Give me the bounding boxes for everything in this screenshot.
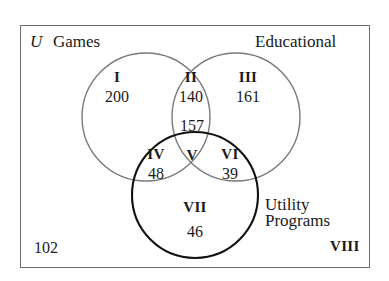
region-count-VI: 39	[222, 166, 238, 183]
venn-diagram-figure: U Games Educational Utility Programs I 2…	[0, 0, 389, 281]
region-label-I: I	[114, 70, 120, 86]
region-label-VII: VII	[183, 200, 206, 216]
region-count-I: 200	[105, 89, 129, 106]
region-label-II: II	[185, 70, 197, 86]
region-label-III: III	[239, 70, 257, 86]
set-label-educational: Educational	[255, 33, 336, 51]
region-count-IV: 48	[148, 166, 164, 183]
region-label-V: V	[186, 148, 197, 164]
region-label-IV: IV	[147, 147, 164, 163]
region-count-VII: 46	[187, 224, 203, 241]
region-count-II: 140	[179, 89, 203, 106]
set-label-utility-line2: Programs	[265, 212, 330, 230]
region-count-VIII: 102	[34, 240, 58, 257]
region-label-VIII: VIII	[330, 239, 360, 255]
universe-symbol: U	[30, 33, 42, 51]
region-count-III: 161	[236, 89, 260, 106]
region-count-V: 157	[180, 118, 204, 135]
set-label-games: Games	[53, 33, 100, 51]
region-label-VI: VI	[221, 147, 238, 163]
